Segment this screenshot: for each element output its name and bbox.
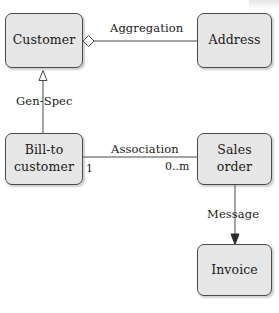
diagram-canvas: Customer Address Bill-to customer Sales …: [0, 0, 279, 313]
node-invoice[interactable]: Invoice: [197, 244, 272, 296]
node-customer-label: Customer: [9, 32, 80, 49]
node-address-label: Address: [205, 32, 265, 49]
node-sales-order[interactable]: Sales order: [197, 133, 272, 185]
node-customer[interactable]: Customer: [5, 13, 83, 68]
edge-label-association: Association: [111, 143, 179, 157]
multiplicity-sales-order: 0..m: [165, 160, 189, 173]
edge-label-aggregation: Aggregation: [110, 22, 183, 36]
edge-label-message: Message: [207, 208, 259, 222]
node-invoice-label: Invoice: [207, 262, 262, 279]
node-bill-to-customer[interactable]: Bill-to customer: [5, 133, 83, 185]
hollow-diamond-icon: [83, 36, 94, 47]
multiplicity-bill-to-customer: 1: [86, 162, 93, 175]
hollow-triangle-icon: [39, 71, 47, 81]
edge-label-gen-spec: Gen-Spec: [16, 95, 73, 109]
node-sales-order-label: Sales order: [198, 142, 271, 176]
solid-arrow-icon: [231, 234, 239, 245]
node-address[interactable]: Address: [197, 13, 272, 68]
node-bill-to-customer-label: Bill-to customer: [10, 142, 78, 176]
